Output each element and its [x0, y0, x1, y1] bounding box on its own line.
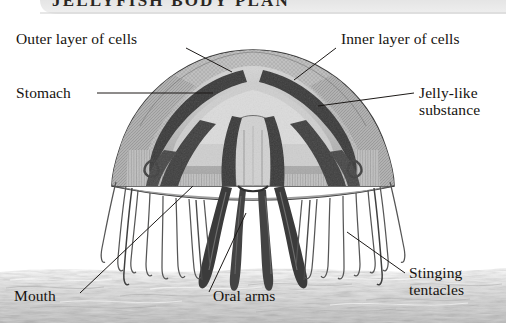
label-inner-layer-of-cells: Inner layer of cells	[341, 31, 460, 48]
banner-title: JELLYFISH BODY PLAN	[52, 0, 290, 11]
label-outer-layer-of-cells: Outer layer of cells	[16, 31, 137, 48]
label-stomach: Stomach	[16, 85, 71, 102]
label-stinging-tentacles: Stinging tentacles	[409, 265, 464, 298]
label-oral-arms: Oral arms	[213, 288, 275, 305]
label-mouth: Mouth	[14, 288, 56, 305]
label-jelly-like-substance: Jelly-like substance	[419, 85, 480, 118]
jellyfish-anatomy-figure: JELLYFISH BODY PLAN Outer layer of cells…	[0, 0, 506, 323]
